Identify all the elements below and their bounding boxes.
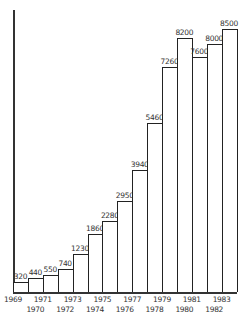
x-tick-label: 1981: [177, 295, 207, 304]
bar-1983: [222, 29, 238, 292]
x-tick-label: 1970: [20, 305, 50, 314]
x-tick-label: 1971: [28, 295, 58, 304]
x-axis-line: [13, 292, 237, 294]
x-tick-label: 1977: [117, 295, 147, 304]
x-tick-label: 1969: [0, 295, 28, 304]
x-tick-label: 1975: [87, 295, 117, 304]
bar-chart: 3201969440197055019717401972123019731860…: [0, 0, 247, 319]
y-axis-line: [13, 10, 15, 293]
x-tick-label: 1983: [207, 295, 237, 304]
x-tick-label: 1973: [58, 295, 88, 304]
x-tick-label: 1976: [110, 305, 140, 314]
x-tick-label: 1980: [169, 305, 199, 314]
x-tick-label: 1972: [50, 305, 80, 314]
x-tick-label: 1979: [147, 295, 177, 304]
x-tick-label: 1974: [80, 305, 110, 314]
x-tick-label: 1978: [140, 305, 170, 314]
value-label: 8200: [169, 28, 199, 37]
value-label: 8500: [214, 19, 244, 28]
x-tick-label: 1982: [199, 305, 229, 314]
